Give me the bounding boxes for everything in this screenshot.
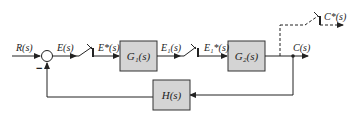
label-sampled-intermediate: E₁*(s) xyxy=(203,42,230,54)
sampler-2 xyxy=(184,44,198,57)
label-sampled-output: C*(s) xyxy=(324,11,347,23)
output-signal xyxy=(265,54,308,58)
block-g1-label: G₁(s) xyxy=(127,50,151,63)
label-error: E(s) xyxy=(56,42,74,54)
block-diagram: R(s) E(s) E*(s) E₁(s) E₁*(s) C(s) C*(s) … xyxy=(0,0,357,120)
label-input: R(s) xyxy=(15,42,33,54)
summing-junction xyxy=(42,51,53,62)
sampler-1 xyxy=(79,44,93,57)
block-g2-label: G₂(s) xyxy=(235,50,259,63)
label-sampled-error: E*(s) xyxy=(97,42,120,54)
label-intermediate: E₁(s) xyxy=(160,42,182,54)
feedback-sign: − xyxy=(36,62,42,74)
block-h-label: H(s) xyxy=(161,89,182,102)
label-output: C(s) xyxy=(293,42,311,54)
